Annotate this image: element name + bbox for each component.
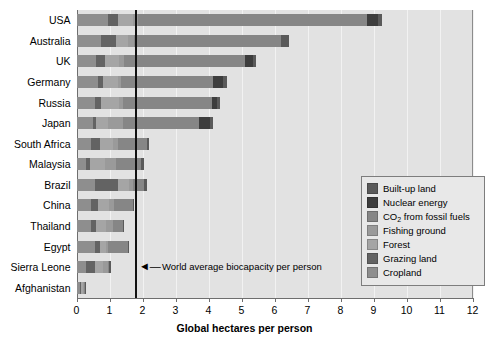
stacked-bar (77, 261, 112, 273)
stacked-bar (77, 241, 130, 253)
bar-segment (77, 179, 95, 191)
stacked-bar (77, 117, 214, 129)
bar-segment (106, 220, 113, 232)
gridline (341, 10, 342, 298)
legend-item[interactable]: Nuclear energy (367, 196, 479, 209)
stacked-bar (77, 55, 257, 67)
bar-segment (77, 55, 97, 67)
x-tick-label: 3 (161, 303, 191, 317)
category-label-japan: Japan (0, 117, 71, 129)
x-tick (209, 298, 210, 302)
gridline (209, 10, 210, 298)
legend-label: Built-up land (383, 183, 436, 194)
legend-item[interactable]: Cropland (367, 266, 479, 279)
category-label-russia: Russia (0, 97, 71, 109)
stacked-bar (77, 199, 135, 211)
bar-segment (77, 220, 92, 232)
bar-segment (199, 117, 211, 129)
stacked-bar (77, 282, 86, 294)
bar-segment (144, 179, 147, 191)
bar-segment (103, 76, 118, 88)
gridline (275, 10, 276, 298)
legend-item[interactable]: CO2 from fossil fuels (367, 210, 479, 223)
category-label-sierra-leone: Sierra Leone (0, 261, 71, 273)
x-tick (143, 298, 144, 302)
x-tick-label: 12 (458, 303, 488, 317)
stacked-bar (77, 220, 125, 232)
category-label-uk: UK (0, 55, 71, 67)
x-tick (440, 298, 441, 302)
bar-segment (118, 138, 148, 150)
legend-item[interactable]: Forest (367, 238, 479, 251)
category-label-thailand: Thailand (0, 220, 71, 232)
y-axis-line (77, 10, 78, 298)
category-label-south-africa: South Africa (0, 138, 71, 150)
x-tick (341, 298, 342, 302)
legend-item[interactable]: Fishing ground (367, 224, 479, 237)
legend-swatch-icon (367, 239, 378, 250)
bar-segment (128, 241, 130, 253)
x-tick-label: 4 (194, 303, 224, 317)
x-tick-label: 9 (359, 303, 389, 317)
bar-segment (77, 158, 87, 170)
bar-segment (116, 35, 128, 47)
legend-item[interactable]: Grazing land (367, 252, 479, 265)
category-label-australia: Australia (0, 35, 71, 47)
bar-segment (147, 138, 149, 150)
bar-segment (98, 199, 110, 211)
bar-segment (77, 199, 92, 211)
bar-segment (217, 97, 220, 109)
bar-segment (108, 241, 128, 253)
x-tick-label: 6 (260, 303, 290, 317)
bar-segment (101, 35, 116, 47)
x-tick (242, 298, 243, 302)
legend-label: Nuclear energy (383, 197, 447, 208)
bar-segment (77, 241, 95, 253)
bar-segment (123, 220, 125, 232)
bar-segment (109, 261, 111, 273)
bar-segment (95, 179, 118, 191)
bar-segment (253, 55, 256, 67)
x-tick-label: 0 (62, 303, 92, 317)
x-tick-label: 1 (95, 303, 125, 317)
bar-segment (77, 117, 94, 129)
bar-segment (116, 158, 141, 170)
gridline (176, 10, 177, 298)
stacked-bar (77, 76, 227, 88)
gridline (242, 10, 243, 298)
bar-segment (77, 97, 95, 109)
bar-segment (114, 199, 132, 211)
x-tick-label: 2 (128, 303, 158, 317)
gridline (110, 10, 111, 298)
stacked-bar (77, 14, 382, 26)
stacked-bar (77, 35, 290, 47)
legend-swatch-icon (367, 211, 378, 222)
legend-swatch-icon (367, 183, 378, 194)
legend-item[interactable]: Built-up land (367, 182, 479, 195)
bar-segment (77, 35, 102, 47)
bar-segment (138, 14, 367, 26)
bar-segment (96, 55, 104, 67)
bar-segment (77, 76, 98, 88)
reference-line-arrow: ◄— (139, 260, 161, 272)
bar-segment (141, 158, 144, 170)
bar-segment (77, 138, 92, 150)
legend-swatch-icon (367, 225, 378, 236)
bar-segment (91, 138, 99, 150)
x-tick-label: 10 (392, 303, 422, 317)
x-tick (407, 298, 408, 302)
x-tick (77, 298, 78, 302)
bar-segment (108, 117, 123, 129)
bar-segment (134, 35, 281, 47)
legend-label: Fishing ground (383, 225, 446, 236)
x-tick (308, 298, 309, 302)
legend-swatch-icon (367, 267, 378, 278)
bar-segment (245, 55, 253, 67)
x-tick-label: 7 (293, 303, 323, 317)
bar-segment (77, 261, 87, 273)
chart-root: USAAustraliaUKGermanyRussiaJapanSouth Af… (0, 0, 489, 343)
bar-segment (105, 158, 117, 170)
stacked-bar (77, 97, 221, 109)
x-tick-label: 11 (425, 303, 455, 317)
bar-segment (118, 14, 133, 26)
